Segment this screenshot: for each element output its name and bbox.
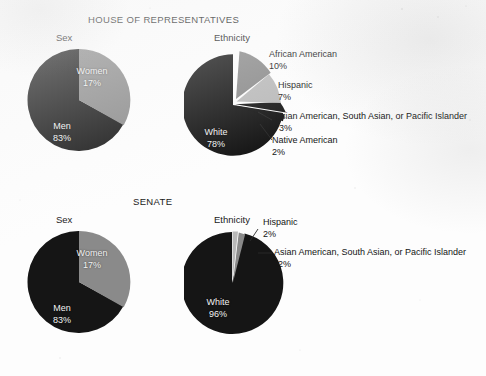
house-ethnicity-hispanic-callout: Hispanic 7% [278,79,313,103]
senate-ethnicity-white-name: White [206,297,229,307]
house-ethnicity-hispanic-name: Hispanic [278,80,313,90]
house-ethnicity-white-value: 78% [207,139,225,149]
senate-section-title: SENATE [133,196,172,207]
senate-ethnicity-white-label: White 96% [192,297,244,320]
house-ethnicity-asian-american-value: 3% [279,122,467,134]
house-ethnicity-native-american-name: Native American [272,135,338,145]
house-ethnicity-asian-american-name: Asian American, South Asian, or Pacific … [275,111,467,121]
senate-sex-men-label: Men 83% [36,303,88,326]
house-ethnicity-asian-american-callout: Asian American, South Asian, or Pacific … [275,110,467,134]
house-sex-men-value: 83% [53,133,71,143]
house-sex-men-name: Men [53,121,71,131]
house-section-title: HOUSE OF REPRESENTATIVES [88,14,239,25]
senate-sex-men-value: 83% [53,315,71,325]
senate-ethnicity-pie-chart [184,228,288,338]
house-ethnicity-white-name: White [204,127,227,137]
house-ethnicity-white-label: White 78% [190,127,242,150]
senate-sex-women-name: Women [77,248,108,258]
senate-sex-women-label: Women 17% [66,248,118,271]
senate-ethnicity-asian-american-name: Asian American, South Asian, or Pacific … [274,247,466,257]
house-sex-women-label: Women 17% [66,66,118,89]
senate-sex-women-value: 17% [83,260,101,270]
house-ethnicity-native-american-callout: Native American 2% [272,134,338,158]
senate-sex-men-name: Men [53,303,71,313]
senate-ethnicity-hispanic-callout: Hispanic 2% [263,216,298,240]
senate-ethnicity-asian-american-value: 2% [278,258,466,270]
senate-sex-chart-title: Sex [56,214,72,225]
senate-ethnicity-white-value: 96% [209,309,227,319]
senate-ethnicity-asian-american-callout: Asian American, South Asian, or Pacific … [274,246,466,270]
house-ethnicity-african-american-name: African American [269,49,337,59]
house-ethnicity-hispanic-value: 7% [278,91,313,103]
house-ethnicity-african-american-value: 10% [269,60,337,72]
senate-ethnicity-hispanic-name: Hispanic [263,217,298,227]
house-ethnicity-african-american-callout: African American 10% [269,48,337,72]
house-sex-chart-title: Sex [56,32,72,43]
senate-ethnicity-chart-title: Ethnicity [214,214,250,225]
house-sex-women-name: Women [77,66,108,76]
house-ethnicity-chart-title: Ethnicity [214,32,250,43]
house-sex-men-label: Men 83% [36,121,88,144]
house-ethnicity-native-american-value: 2% [272,146,338,158]
house-sex-women-value: 17% [83,78,101,88]
senate-ethnicity-hispanic-value: 2% [263,228,298,240]
